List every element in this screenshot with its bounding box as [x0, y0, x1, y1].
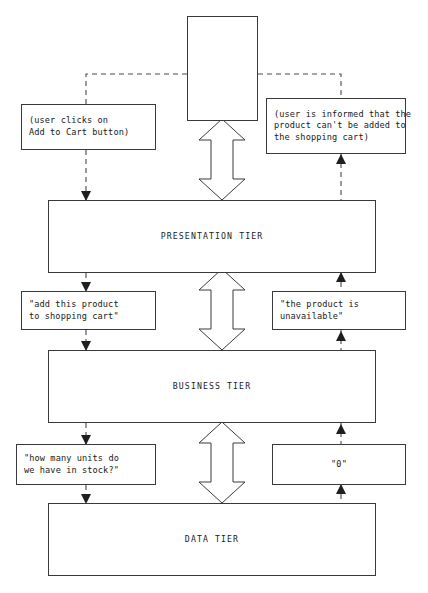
tier-business[interactable]: BUSINESS TIER [48, 350, 376, 423]
note-text: (user clicks on Add to Cart button) [29, 115, 129, 138]
note-product-is-unavailable[interactable]: "the product is unavailable" [272, 291, 406, 330]
note-add-this-product[interactable]: "add this product to shopping cart" [21, 291, 156, 330]
note-user-informed-unavailable[interactable]: (user is informed that the product can't… [266, 98, 406, 154]
note-user-clicks-add-to-cart[interactable]: (user clicks on Add to Cart button) [21, 104, 156, 150]
tier-data[interactable]: DATA TIER [48, 503, 376, 576]
bidirectional-arrow-presentation-business [199, 269, 245, 350]
bidirectional-arrow-business-data [199, 422, 245, 503]
diagram-canvas: .dash { stroke: #4a4a4a; stroke-width: 1… [0, 0, 428, 593]
tier-label: PRESENTATION TIER [161, 231, 264, 242]
note-text: (user is informed that the product can't… [274, 109, 411, 144]
note-text: "how many units do we have in stock?" [24, 453, 119, 476]
tier-presentation[interactable]: PRESENTATION TIER [48, 200, 376, 273]
note-how-many-units-in-stock[interactable]: "how many units do we have in stock?" [16, 444, 156, 485]
bidirectional-arrow-actor-presentation [199, 119, 245, 200]
note-text: "0" [331, 459, 347, 471]
tier-label: DATA TIER [185, 534, 239, 545]
actor-box[interactable] [187, 16, 258, 121]
note-text: "add this product to shopping cart" [29, 299, 119, 322]
note-zero-units[interactable]: "0" [272, 444, 406, 485]
note-text: "the product is unavailable" [280, 299, 359, 322]
tier-label: BUSINESS TIER [173, 381, 251, 392]
